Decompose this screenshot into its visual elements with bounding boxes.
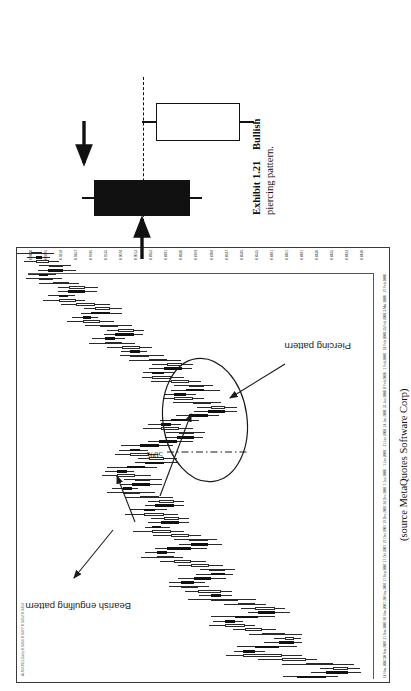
candlestick <box>145 526 170 529</box>
candlestick <box>142 376 185 379</box>
candle-body-bullish <box>282 658 306 661</box>
candle-body-bearish <box>191 543 208 546</box>
candle-body-bullish <box>144 513 164 516</box>
candle-body-bullish <box>161 427 180 430</box>
candlestick <box>107 346 152 349</box>
candle-body-bullish <box>135 479 150 482</box>
candle-body-bullish <box>193 402 212 405</box>
candlestick <box>320 667 360 670</box>
piercing-pattern-schematic <box>24 71 384 221</box>
candle-body-bearish <box>152 372 164 375</box>
chart-watermark-label: AUD/USD,Daily 0.9366 0.9377 0.9352 0.935… <box>21 603 25 676</box>
candlestick <box>173 402 221 405</box>
candlestick <box>153 534 200 537</box>
candle-body-bearish <box>132 483 151 486</box>
candle-body-bullish <box>59 299 76 302</box>
candlestick <box>274 637 301 640</box>
candle-body-bullish <box>53 282 70 285</box>
candlestick <box>120 355 165 358</box>
figure-source-credit: (source MetaQuotes Software Corp) <box>398 389 409 542</box>
candle-body-bullish <box>209 569 224 572</box>
candlestick <box>188 599 256 602</box>
candle-body-bullish <box>306 663 333 666</box>
date-tick-label: 3 Mar 2008 <box>383 295 387 311</box>
candlestick <box>171 389 220 392</box>
candle-body-bearish <box>243 650 255 653</box>
candlestick <box>213 620 243 623</box>
candle-body-bearish <box>164 367 183 370</box>
candlestick <box>107 492 155 495</box>
candle-body-bearish <box>326 671 348 674</box>
candlestick <box>48 295 75 298</box>
candlestick <box>148 521 189 524</box>
candlestick <box>178 577 226 580</box>
candle-body-bullish <box>159 500 174 503</box>
candlestick <box>163 397 204 400</box>
candle-body-bearish <box>174 393 186 396</box>
caption-exhibit-number: Exhibit 1.21 <box>251 161 262 215</box>
candlestick <box>135 462 178 465</box>
candlestick <box>121 350 147 353</box>
candle-body-bullish <box>83 320 100 323</box>
candle-body-bullish <box>164 517 179 520</box>
candle-body-bearish <box>208 410 225 413</box>
date-tick-label: 18 Feb 2008 <box>383 332 387 350</box>
date-tick-label: 21 Dec 2007 <box>383 525 387 543</box>
caption-title-word1: Bullish <box>251 119 262 159</box>
candle-body-bearish <box>177 436 194 439</box>
candlestick <box>174 385 213 388</box>
candle-body-bullish <box>191 564 210 567</box>
date-tick-label: 19 Dec 2007 <box>383 506 387 524</box>
candle-body-bullish <box>123 492 140 495</box>
candle-body-bearish <box>159 440 178 443</box>
candle-body-bearish <box>127 466 146 469</box>
metatrader-chart-panel: AUD/USD,Daily 0.9366 0.9377 0.9352 0.935… <box>16 247 390 683</box>
candle-body-bullish <box>189 385 204 388</box>
candlestick <box>194 410 238 413</box>
candle-body-bearish <box>155 504 174 507</box>
candlestick <box>58 286 98 289</box>
candle-body-bearish <box>157 551 167 554</box>
candle-body-bullish <box>130 355 149 358</box>
candlestick <box>89 342 135 345</box>
annotation-fifty-percent: 50% <box>147 450 164 460</box>
candle-body-bullish <box>179 432 194 435</box>
candle-body-bearish <box>130 350 140 353</box>
candlestick <box>129 359 181 362</box>
candlestick <box>92 337 125 340</box>
candle-body-bullish <box>95 307 110 310</box>
candle-body-bearish <box>235 616 259 619</box>
candle-body-bullish <box>245 628 262 631</box>
candle-body-bearish <box>68 290 85 293</box>
candlestick <box>148 440 193 443</box>
candle-body-bullish <box>122 346 141 349</box>
candlestick <box>107 329 144 332</box>
candle-body-bullish <box>152 530 171 533</box>
candlestick <box>169 581 206 584</box>
price-tick-label: 0.8425 <box>330 250 334 260</box>
candlestick <box>237 646 298 649</box>
candle-body-bearish <box>91 312 110 315</box>
caption-title-word2: piercing pattern. <box>264 146 275 215</box>
date-tick-label: 21 Jan 2008 <box>383 429 387 447</box>
candle-body-bullish <box>211 599 238 602</box>
candlestick <box>119 449 149 452</box>
date-tick-label: 7 Jan 2008 <box>383 469 387 485</box>
candlestick-plot-area <box>29 251 373 679</box>
candlestick <box>148 423 181 426</box>
candle-body-bearish <box>161 521 180 524</box>
date-tick-label: 07 Nov 2007 <box>383 602 387 620</box>
candle-body-bearish <box>225 620 235 623</box>
candlestick <box>264 641 303 644</box>
candlestick <box>248 611 289 614</box>
candle-body-bullish <box>149 359 168 362</box>
date-tick-label: 31 Jan 2008 <box>383 390 387 408</box>
candlestick <box>211 616 275 619</box>
candlestick <box>143 372 176 375</box>
candlestick <box>249 633 301 636</box>
candle-body-bearish <box>279 641 294 644</box>
candle-body-bearish <box>59 295 67 298</box>
price-tick-label: 0.8420 <box>360 250 364 260</box>
candle-body-bullish <box>157 556 174 559</box>
candlestick <box>169 586 209 589</box>
